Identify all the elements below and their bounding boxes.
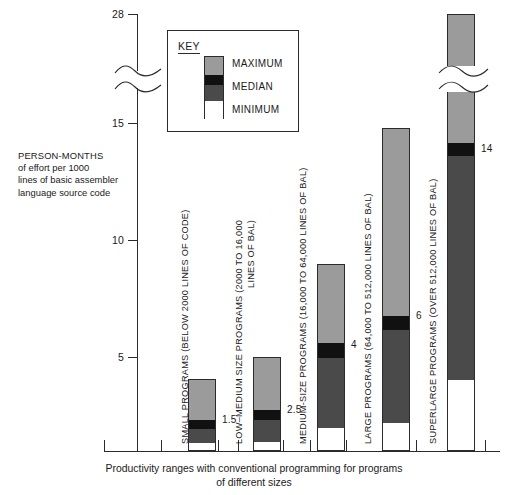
bar-medium-segment-base bbox=[318, 428, 344, 450]
y-tick-15 bbox=[128, 123, 138, 124]
bar-label-small: SMALL PROGRAMS (BELOW 2000 LINES OF CODE… bbox=[180, 209, 191, 444]
bar-medium[interactable] bbox=[317, 264, 345, 451]
bar-label-low-medium-line-1: LOW–MEDIUM SIZE PROGRAMS (2000 TO 16,000 bbox=[234, 220, 246, 444]
key-swatch-bar bbox=[204, 56, 224, 100]
bar-small-segment-maximum bbox=[189, 380, 215, 420]
x-tick-10 bbox=[485, 440, 486, 451]
key-label-minimum: MINIMUM bbox=[232, 104, 279, 115]
bar-superlarge-median-label: 14 bbox=[481, 143, 493, 154]
bar-low-medium[interactable] bbox=[253, 357, 281, 451]
bar-small-segment-minimum bbox=[189, 429, 215, 443]
y-tick-10 bbox=[128, 240, 138, 241]
key-stem-right bbox=[223, 100, 224, 119]
bar-superlarge-segment-minimum bbox=[448, 156, 474, 380]
y-axis-caption-line-1: PERSON-MONTHS bbox=[18, 150, 138, 162]
y-axis-caption-line-3: lines of basic assembler bbox=[18, 174, 138, 186]
x-axis-baseline bbox=[104, 451, 500, 452]
y-tick-5 bbox=[128, 357, 138, 358]
bar-label-low-medium-line-2: LINES OF BAL) bbox=[246, 220, 258, 444]
bar-low-medium-segment-minimum bbox=[254, 420, 280, 442]
bar-medium-segment-minimum bbox=[318, 358, 344, 428]
bar-large-median-label: 6 bbox=[416, 310, 422, 321]
key-legend-box: KEY MAXIMUM MEDIAN MINIMUM bbox=[167, 30, 299, 132]
x-tick-1 bbox=[161, 440, 162, 451]
bar-medium-median-label: 4 bbox=[351, 339, 357, 350]
y-tick-28 bbox=[128, 14, 138, 15]
y-tick-label-10: 10 bbox=[98, 235, 124, 245]
bar-low-medium-segment-base bbox=[254, 442, 280, 450]
key-title: KEY bbox=[178, 40, 200, 54]
x-tick-0 bbox=[104, 440, 105, 451]
bar-medium-segment-maximum bbox=[318, 265, 344, 343]
y-axis-caption: PERSON-MONTHS of effort per 1000 lines o… bbox=[18, 150, 138, 199]
bar-label-medium: MEDIUM-SIZE PROGRAMS (16,000 TO 64,000 L… bbox=[298, 167, 309, 444]
bar-small-segment-median bbox=[189, 420, 215, 429]
y-axis-caption-line-2: of effort per 1000 bbox=[18, 162, 138, 174]
chart-caption-line-2: of different sizes bbox=[44, 476, 464, 490]
x-tick-4 bbox=[283, 440, 284, 451]
bar-label-low-medium: LOW–MEDIUM SIZE PROGRAMS (2000 TO 16,000… bbox=[234, 220, 257, 444]
x-tick-2 bbox=[218, 440, 219, 451]
key-segment-maximum bbox=[205, 57, 223, 75]
bar-large[interactable] bbox=[382, 128, 410, 451]
bar-medium-segment-median bbox=[318, 343, 344, 358]
bar-low-medium-segment-median bbox=[254, 410, 280, 420]
y-axis-break-icon bbox=[113, 60, 165, 98]
y-tick-label-28: 28 bbox=[98, 9, 124, 19]
bar-large-segment-base bbox=[383, 423, 409, 450]
bar-label-superlarge: SUPERLARGE PROGRAMS (OVER 512,000 LINES … bbox=[428, 178, 439, 444]
bar-superlarge-segment-median bbox=[448, 143, 474, 156]
bar-large-segment-median bbox=[383, 316, 409, 330]
chart-caption-line-1: Productivity ranges with conventional pr… bbox=[44, 462, 464, 476]
key-stem-left bbox=[204, 100, 205, 119]
bar-superlarge-segment-base bbox=[448, 380, 474, 450]
key-label-median: MEDIAN bbox=[232, 81, 273, 92]
bar-small-segment-base bbox=[189, 443, 215, 450]
chart-canvas: PERSON-MONTHS of effort per 1000 lines o… bbox=[0, 0, 507, 495]
bar-low-medium-segment-maximum bbox=[254, 358, 280, 410]
y-tick-label-15: 15 bbox=[98, 118, 124, 128]
bar-superlarge[interactable] bbox=[447, 88, 475, 451]
bar-large-segment-maximum bbox=[383, 129, 409, 316]
key-segment-minimum bbox=[205, 85, 223, 101]
bar-superlarge-break-icon bbox=[436, 60, 490, 98]
key-segment-median bbox=[205, 75, 223, 85]
y-axis-caption-line-4: language source code bbox=[18, 187, 138, 199]
x-tick-6 bbox=[346, 440, 347, 451]
y-axis-spine-lower bbox=[137, 88, 138, 451]
key-label-maximum: MAXIMUM bbox=[232, 58, 283, 69]
y-tick-label-5: 5 bbox=[98, 352, 124, 362]
x-tick-5 bbox=[310, 440, 311, 451]
x-tick-8 bbox=[416, 440, 417, 451]
bar-label-large: LARGE PROGRAMS (64,000 TO 512,000 LINES … bbox=[363, 193, 374, 444]
chart-caption: Productivity ranges with conventional pr… bbox=[44, 462, 464, 490]
bar-large-segment-minimum bbox=[383, 330, 409, 423]
bar-small[interactable] bbox=[188, 379, 216, 451]
